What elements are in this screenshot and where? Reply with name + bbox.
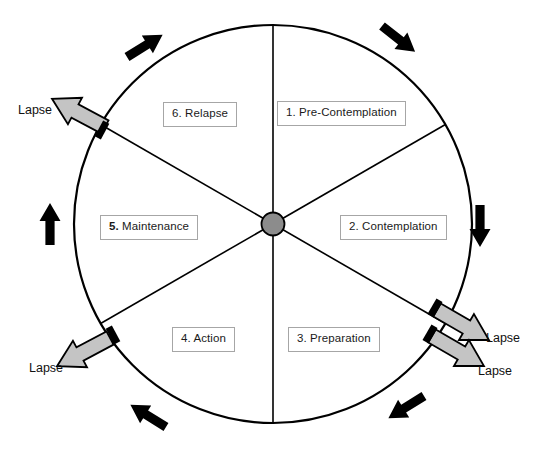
stage-label-text: 6. Relapse (172, 107, 228, 119)
stage-label-text: 4. Action (181, 332, 226, 344)
stage-label-relapse[interactable]: 6. Relapse (163, 102, 237, 127)
lapse-label-lower-left: Lapse (29, 362, 63, 375)
stage-label-text: 1. Pre-Contemplation (286, 106, 397, 118)
stage-label-action[interactable]: 4. Action (172, 327, 235, 352)
flow-arrow-bottom-right (383, 387, 430, 427)
center-hub (262, 213, 285, 236)
stages-of-change-wheel (0, 0, 540, 449)
lapse-label-upper-left: Lapse (18, 104, 52, 117)
stage-label-text: 3. Preparation (297, 332, 371, 344)
stage-label-text: 2. Contemplation (349, 220, 438, 232)
stage-number: 5. (109, 220, 119, 232)
lapse-label-right-lower: Lapse (478, 365, 512, 378)
stage-label-pre-contemplation[interactable]: 1. Pre-Contemplation (277, 101, 406, 126)
flow-arrow-left (40, 203, 61, 245)
stage-label-text: Maintenance (119, 220, 189, 232)
stage-label-maintenance[interactable]: 5. Maintenance (100, 215, 198, 240)
stage-label-contemplation[interactable]: 2. Contemplation (340, 215, 447, 240)
lapse-label-right-upper: Lapse (486, 332, 520, 345)
stage-label-preparation[interactable]: 3. Preparation (288, 327, 380, 352)
flow-arrow-bottom-left (125, 396, 172, 436)
flow-arrow-top-right (376, 18, 422, 60)
diagram-canvas: 1. Pre-Contemplation 2. Contemplation 3.… (0, 0, 540, 449)
